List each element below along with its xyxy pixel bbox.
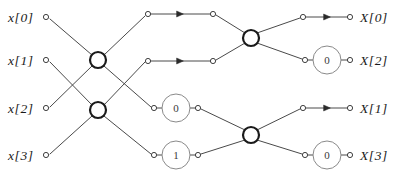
butterfly-node-stage2-lower [243, 127, 259, 143]
fft-butterfly-diagram: 0100 x[0]x[1]x[2]x[3]X[0]X[2]X[1]X[3] [0, 0, 398, 182]
butterfly-node-stage1-lower [90, 102, 106, 118]
output-label-3: X[3] [360, 149, 388, 163]
edge-s2l-to-out3 [257, 109, 300, 130]
arrow-row3-stage2-icon [324, 105, 331, 111]
output-node-dot-1 [347, 57, 352, 62]
edge-s1u-to-row3 [104, 66, 151, 107]
stage2-output-dot-0 [300, 14, 305, 19]
edge-s1l-to-row2 [104, 62, 145, 105]
butterfly-node-stage2-upper [243, 30, 259, 46]
arrow-row2-stage1-icon [177, 58, 184, 64]
input-label-0: x[0] [8, 11, 34, 25]
stage2-input-dot-1 [210, 58, 215, 63]
input-node-dot-2 [43, 105, 48, 110]
output-node-dot-2 [347, 105, 352, 110]
twiddle-factor-value-stage2-row4: 0 [324, 149, 330, 161]
butterfly-node-stage1-upper [90, 52, 106, 68]
stage2-input-dot-3 [195, 152, 200, 157]
edge-s1l-to-row4 [104, 116, 151, 154]
stage2-input-dot-0 [210, 11, 215, 16]
butterfly-nodes-group [90, 30, 259, 143]
stage1-output-dot-1 [145, 58, 150, 63]
input-node-dot-3 [43, 152, 48, 157]
stage2-output-dot-3 [302, 152, 307, 157]
input-label-2: x[2] [8, 102, 34, 116]
edge-row1-to-s2u [216, 15, 245, 33]
twiddle-factor-value-stage2-row2: 0 [324, 54, 330, 66]
edge-x3-to-s1l [50, 116, 92, 154]
edges-group [50, 14, 348, 155]
edge-s2u-to-out2 [257, 43, 302, 59]
output-node-dot-3 [347, 152, 352, 157]
edge-x1-to-s1l [50, 62, 92, 105]
output-label-0: X[0] [360, 11, 388, 25]
node-dots-group [43, 11, 352, 157]
input-node-dot-1 [43, 57, 48, 62]
stage2-output-dot-2 [300, 105, 305, 110]
arrow-row1-stage1-icon [177, 11, 184, 17]
input-label-1: x[1] [8, 54, 34, 68]
edge-x2-to-s1u [50, 66, 92, 107]
edge-row4-to-s2l [201, 140, 245, 154]
stage2-input-dot-2 [195, 105, 200, 110]
twiddle-factor-value-stage1-row4: 1 [173, 149, 179, 161]
output-label-2: X[1] [360, 102, 388, 116]
edge-x0-to-s1u [50, 19, 92, 55]
output-label-1: X[2] [360, 54, 388, 68]
signal-flow-graph-canvas: 0100 [0, 0, 398, 182]
stage1-output-dot-0 [145, 11, 150, 16]
edge-s2u-to-out1 [257, 18, 300, 33]
twiddle-factor-value-stage1-row3: 0 [173, 102, 179, 114]
stage2-output-dot-1 [302, 57, 307, 62]
stage1-output-dot-3 [151, 152, 156, 157]
stage1-output-dot-2 [151, 105, 156, 110]
edge-row2-to-s2u [216, 43, 245, 60]
input-label-3: x[3] [8, 149, 34, 163]
edge-s1u-to-row1 [104, 16, 145, 55]
input-node-dot-0 [43, 14, 48, 19]
arrow-row1-stage2-icon [324, 14, 331, 20]
edge-s2l-to-out4 [257, 140, 302, 154]
output-node-dot-0 [347, 14, 352, 19]
edge-row3-to-s2l [201, 109, 245, 130]
